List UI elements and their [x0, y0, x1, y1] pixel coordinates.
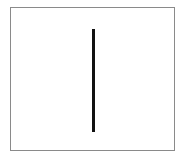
vertical-line [92, 29, 95, 132]
diagram-canvas [0, 0, 185, 158]
